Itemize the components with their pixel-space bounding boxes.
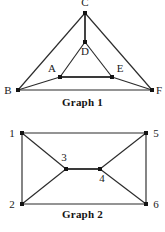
graph-edge-D-E: [85, 42, 112, 77]
graph-vertex-F: [150, 88, 154, 92]
vertex-label-C: C: [81, 0, 88, 8]
graph-vertex-A: [58, 75, 62, 79]
graph-2-edges: [22, 133, 146, 204]
graph-1-caption: Graph 1: [0, 96, 165, 108]
vertex-label-E: E: [117, 62, 124, 74]
graph-vertex-B: [16, 88, 20, 92]
graph-vertex-2: [20, 202, 24, 206]
vertex-label-B: B: [4, 84, 11, 96]
graph-vertex-D: [83, 40, 87, 44]
vertex-label-4: 4: [99, 172, 105, 184]
graph-edge-C-F: [85, 13, 152, 90]
vertex-label-1: 1: [9, 127, 15, 139]
vertex-label-3: 3: [61, 151, 67, 163]
graph-vertex-C: [83, 11, 87, 15]
vertex-label-5: 5: [153, 127, 159, 139]
graph-vertex-E: [110, 75, 114, 79]
vertex-label-F: F: [156, 84, 162, 96]
graph-vertex-6: [144, 202, 148, 206]
graph-edge-C-B: [18, 13, 85, 90]
graph-edge-4-5: [100, 133, 146, 169]
graph-2-caption: Graph 2: [0, 208, 165, 220]
figure-root: CDAEBF Graph 1 153426 Graph 2: [0, 0, 165, 232]
graph-edge-2-3: [22, 169, 66, 204]
vertex-label-A: A: [48, 62, 56, 74]
graph-edge-4-6: [100, 169, 146, 204]
graph-vertex-3: [64, 167, 68, 171]
vertex-label-D: D: [81, 45, 89, 57]
graph-vertex-1: [20, 131, 24, 135]
page-edge-artifact: [0, 224, 165, 232]
graph-vertex-4: [98, 167, 102, 171]
graph-vertex-5: [144, 131, 148, 135]
graph-edge-1-3: [22, 133, 66, 169]
